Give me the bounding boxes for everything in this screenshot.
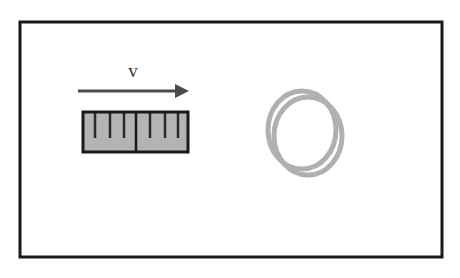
physics-diagram-figure: v: [0, 0, 460, 278]
velocity-label: v: [128, 60, 138, 81]
diagram-canvas: v: [0, 0, 460, 278]
